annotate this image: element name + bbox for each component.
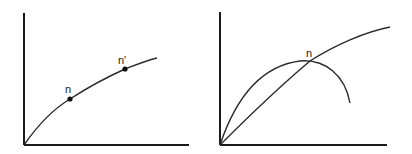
diagram-canvas: n n' n — [0, 0, 412, 154]
right-panel: n — [220, 12, 390, 145]
right-rising-line — [220, 27, 390, 145]
label-n: n — [65, 83, 71, 95]
label-n-intersection: n — [306, 47, 312, 59]
left-panel: n n' — [24, 13, 189, 145]
point-n-prime — [122, 66, 127, 71]
left-curve — [24, 58, 157, 145]
point-n — [67, 96, 72, 101]
label-n-prime: n' — [118, 54, 126, 66]
right-arc — [220, 61, 350, 145]
